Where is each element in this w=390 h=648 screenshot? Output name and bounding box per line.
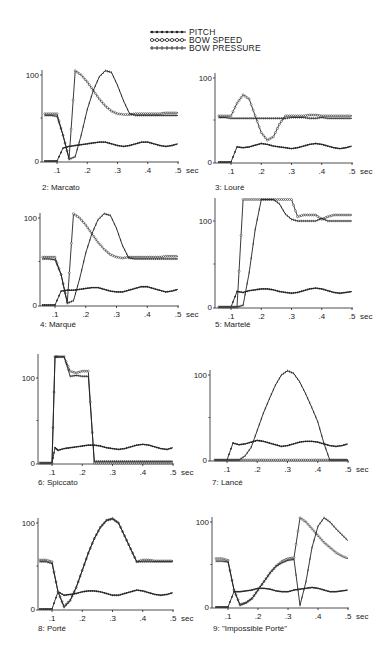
panel-caption: 9: "Impossible Porté" [213, 624, 287, 633]
y-tick-label: 100 [194, 371, 208, 380]
x-unit-label: sec [181, 614, 193, 623]
x-tick-label: .1 [49, 468, 56, 477]
panel-caption: 2: Marcato [42, 183, 80, 192]
panel-loure: 1000.1.2.3.4.5sec3: Louré [199, 73, 373, 192]
x-tick-label: .5 [345, 465, 352, 474]
x-tick-label: .1 [52, 310, 59, 319]
panel-marcato: 1000.1.2.3.4.5sec2: Marcato [26, 70, 199, 193]
x-tick-label: .5 [175, 310, 182, 319]
x-tick-label: .2 [84, 166, 91, 175]
x-tick-label: .5 [175, 166, 182, 175]
x-tick-label: .2 [254, 465, 261, 474]
series-markers [40, 356, 171, 465]
panel-caption: 8: Porté [38, 624, 67, 633]
x-tick-label: .3 [109, 614, 116, 623]
panel-porte: 1000.1.2.3.4.5sec8: Porté [22, 518, 194, 634]
series-markers [42, 286, 177, 306]
series-pitch [219, 144, 352, 163]
x-tick-label: .3 [288, 312, 295, 321]
x-tick-label: .4 [318, 312, 325, 321]
series-markers [218, 143, 351, 163]
x-unit-label: sec [181, 468, 193, 477]
y-tick-label: 100 [26, 71, 40, 80]
x-tick-label: .1 [49, 614, 56, 623]
x-tick-label: .4 [139, 614, 146, 623]
y-tick-label: 0 [205, 603, 210, 612]
x-tick-label: .5 [349, 167, 356, 176]
y-tick-label: 0 [31, 605, 36, 614]
y-tick-label: 0 [203, 456, 208, 465]
panel-impossible-porte: 1000.1.2.3.4.5sec9: "Impossible Porté" [196, 517, 369, 633]
y-tick-label: 100 [24, 214, 38, 223]
x-tick-label: .5 [349, 312, 356, 321]
y-tick-label: 0 [208, 303, 213, 312]
y-tick-label: 100 [196, 518, 210, 527]
x-unit-label: sec [356, 612, 368, 621]
x-tick-label: .5 [345, 612, 352, 621]
y-tick-label: 0 [208, 158, 213, 167]
x-tick-label: .1 [54, 166, 61, 175]
panel-caption: 6: Spiccato [38, 478, 78, 487]
x-tick-label: .2 [79, 614, 86, 623]
series-markers [215, 370, 346, 462]
panel-caption: 4: Marqué [40, 320, 77, 329]
y-tick-label: 100 [199, 74, 213, 83]
y-tick-label: 100 [22, 374, 36, 383]
x-tick-label: .2 [82, 310, 89, 319]
x-tick-label: .3 [114, 166, 121, 175]
x-unit-label: sec [360, 167, 372, 176]
x-tick-label: .3 [285, 612, 292, 621]
x-unit-label: sec [360, 312, 372, 321]
x-tick-label: .3 [109, 468, 116, 477]
panel-marque: 1000.1.2.3.4.5sec4: Marqué [24, 212, 199, 329]
y-tick-label: 100 [199, 217, 213, 226]
x-tick-label: .2 [258, 167, 265, 176]
x-tick-label: .2 [258, 312, 265, 321]
x-tick-label: .3 [288, 167, 295, 176]
y-tick-label: 0 [35, 157, 40, 166]
x-tick-label: .4 [139, 468, 146, 477]
series-markers [44, 70, 177, 160]
x-tick-label: .4 [314, 465, 321, 474]
x-tick-label: .4 [144, 310, 151, 319]
x-tick-label: .4 [318, 167, 325, 176]
panel-caption: 5: Martelé [215, 320, 251, 329]
x-unit-label: sec [186, 310, 198, 319]
panel-lance: 1000.1.2.3.4.5sec7: Lancé [194, 370, 369, 487]
x-tick-label: .5 [170, 468, 177, 477]
series-markers [214, 440, 347, 461]
figure-panels: 1000.1.2.3.4.5sec2: Marcato1000.1.2.3.4.… [0, 0, 390, 648]
y-tick-label: 0 [33, 301, 38, 310]
x-tick-label: .1 [225, 612, 232, 621]
x-tick-label: .3 [113, 310, 120, 319]
y-tick-label: 100 [22, 519, 36, 528]
x-tick-label: .2 [255, 612, 262, 621]
panel-caption: 3: Louré [215, 183, 245, 192]
panel-spiccato: 1000.1.2.3.4.5sec6: Spiccato [22, 354, 194, 487]
x-tick-label: .3 [284, 465, 291, 474]
x-tick-label: .4 [315, 612, 322, 621]
panel-martele: 1000.1.2.3.4.5sec5: Martelé [199, 198, 373, 329]
x-tick-label: .1 [228, 167, 235, 176]
x-tick-label: .2 [79, 468, 86, 477]
x-tick-label: .1 [224, 465, 231, 474]
y-tick-label: 0 [31, 459, 36, 468]
panel-caption: 7: Lancé [212, 478, 243, 487]
x-unit-label: sec [186, 166, 198, 175]
x-unit-label: sec [356, 465, 368, 474]
x-tick-label: .5 [170, 614, 177, 623]
x-tick-label: .4 [144, 166, 151, 175]
